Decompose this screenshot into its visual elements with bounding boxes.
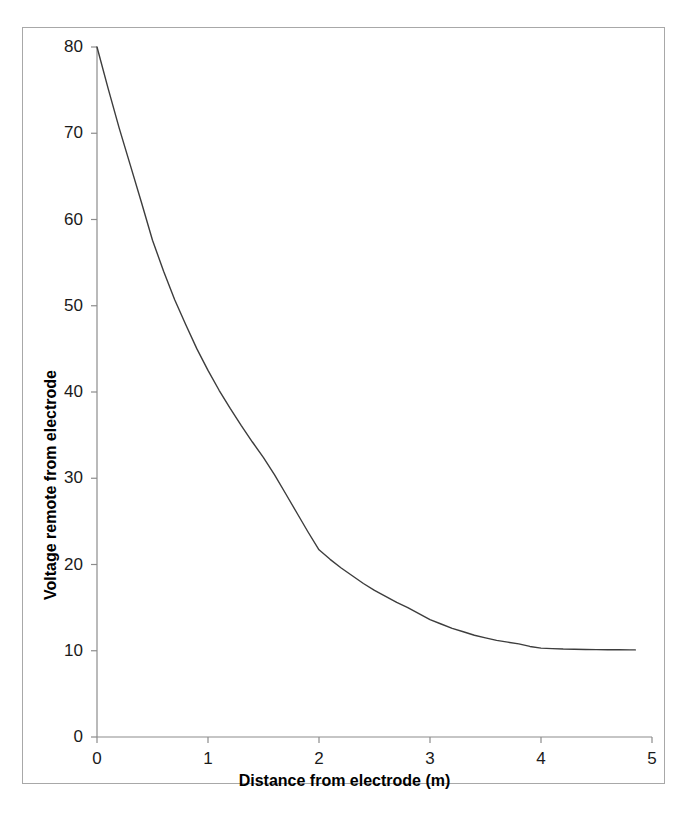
- y-axis-group: [91, 47, 97, 737]
- y-axis-ticks: [91, 47, 97, 737]
- x-tick-label: 3: [425, 749, 434, 769]
- x-axis-ticks: [97, 737, 652, 743]
- x-tick-label: 5: [647, 749, 656, 769]
- y-tick-label: 10: [39, 641, 83, 661]
- y-tick-label: 80: [39, 37, 83, 57]
- x-tick-label: 2: [314, 749, 323, 769]
- voltage-decay-curve: [97, 47, 635, 650]
- x-axis-group: [97, 737, 652, 743]
- y-tick-label: 60: [39, 210, 83, 230]
- x-tick-label: 4: [536, 749, 545, 769]
- y-tick-label: 70: [39, 123, 83, 143]
- x-tick-label: 1: [203, 749, 212, 769]
- voltage-distance-line-chart: [0, 0, 689, 814]
- x-tick-label: 0: [92, 749, 101, 769]
- x-axis-title: Distance from electrode (m): [0, 772, 689, 790]
- y-axis-title: Voltage remote from electrode: [42, 370, 60, 600]
- y-tick-label: 0: [39, 727, 83, 747]
- y-tick-label: 50: [39, 296, 83, 316]
